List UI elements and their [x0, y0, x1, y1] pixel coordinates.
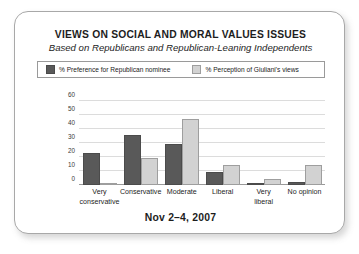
bar — [305, 165, 322, 185]
legend-item-label: % Perception of Giuliani's views — [205, 66, 298, 73]
bar-groups — [79, 101, 325, 185]
bar-group — [79, 101, 120, 185]
x-axis-label-line: Very — [243, 188, 284, 198]
bar-group — [120, 101, 161, 185]
x-axis-category-label: Veryconservative — [79, 188, 120, 207]
x-axis-category-label: Veryliberal — [243, 188, 284, 207]
chart-footer-date: Nov 2–4, 2007 — [15, 212, 346, 223]
bar — [141, 158, 158, 185]
x-axis-label-line: No opinion — [284, 188, 325, 198]
y-axis-tick-label: 50 — [68, 105, 75, 112]
bar — [247, 183, 264, 185]
x-axis-category-label: No opinion — [284, 188, 325, 207]
x-axis-label-line: Conservative — [120, 188, 161, 198]
dark-square-icon — [46, 65, 55, 74]
y-axis-tick-label: 30 — [68, 133, 75, 140]
bar — [100, 183, 117, 185]
bar-group — [243, 101, 284, 185]
y-axis-tick-label: 10 — [68, 161, 75, 168]
bar — [223, 165, 240, 185]
bar — [206, 172, 223, 185]
y-axis-tick-label: 60 — [68, 91, 75, 98]
x-axis-label-line: Liberal — [202, 188, 243, 198]
bar-group — [161, 101, 202, 185]
bar — [83, 153, 100, 185]
bar — [124, 135, 141, 185]
x-axis-category-label: Liberal — [202, 188, 243, 207]
bar — [264, 179, 281, 185]
x-axis-label-line: conservative — [79, 198, 120, 208]
bar — [288, 182, 305, 185]
x-axis-label-line: Very — [79, 188, 120, 198]
bar — [182, 119, 199, 185]
x-axis-label-line: liberal — [243, 198, 284, 208]
chart-legend: % Preference for Republican nominee % Pe… — [37, 61, 325, 78]
y-axis-tick-label: 40 — [68, 119, 75, 126]
x-axis-category-label: Conservative — [120, 188, 161, 207]
x-axis-labels: VeryconservativeConservativeModerateLibe… — [79, 188, 325, 207]
page-subtitle: Based on Republicans and Republican-Lean… — [15, 42, 346, 53]
bar-group — [284, 101, 325, 185]
page-title: VIEWS ON SOCIAL AND MORAL VALUES ISSUES — [15, 29, 346, 40]
bar — [165, 144, 182, 185]
legend-item-label: % Preference for Republican nominee — [59, 66, 170, 73]
x-axis-label-line: Moderate — [161, 188, 202, 198]
y-axis-tick-label: 20 — [68, 147, 75, 154]
light-square-icon — [192, 65, 201, 74]
legend-item-perception: % Perception of Giuliani's views — [192, 62, 298, 77]
y-axis-tick-label: 0 — [71, 175, 75, 182]
chart-card: VIEWS ON SOCIAL AND MORAL VALUES ISSUES … — [14, 11, 345, 234]
x-axis-category-label: Moderate — [161, 188, 202, 207]
bar-group — [202, 101, 243, 185]
legend-item-preference: % Preference for Republican nominee — [46, 62, 170, 77]
screenshot-root: VIEWS ON SOCIAL AND MORAL VALUES ISSUES … — [0, 0, 359, 254]
plot-area: 0102030405060 — [79, 101, 325, 185]
